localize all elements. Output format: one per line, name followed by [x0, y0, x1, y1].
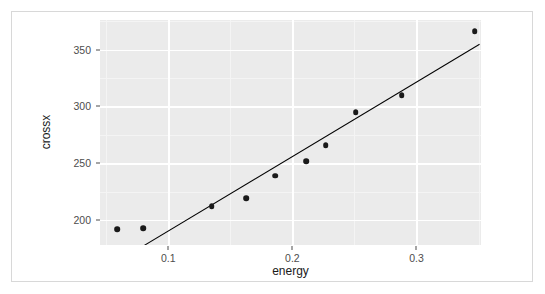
- grid-line-major-vertical: [168, 20, 169, 245]
- grid-line-minor-horizontal: [100, 192, 481, 193]
- grid-line-minor-vertical: [230, 20, 231, 245]
- data-point: [323, 142, 329, 148]
- grid-line-major-horizontal: [100, 220, 481, 221]
- x-axis-tick-mark: [292, 246, 293, 250]
- grid-line-major-horizontal: [100, 50, 481, 51]
- x-axis-tick-mark: [416, 246, 417, 250]
- scatter-plot: 2002503003500.10.20.3 crossx energy: [0, 0, 545, 294]
- y-axis-tick-label: 350: [73, 44, 91, 56]
- data-point: [353, 109, 359, 115]
- x-axis-tick-mark: [168, 246, 169, 250]
- y-axis-tick-label: 300: [73, 100, 91, 112]
- x-axis-tick-label: 0.2: [285, 252, 300, 264]
- grid-line-minor-horizontal: [100, 135, 481, 136]
- y-axis-tick-label: 250: [73, 157, 91, 169]
- y-axis-tick-label: 200: [73, 214, 91, 226]
- x-axis-label: energy: [100, 264, 481, 278]
- data-point: [399, 92, 405, 98]
- plot-panel: [100, 20, 481, 245]
- data-point: [209, 204, 215, 210]
- chart-root: 2002503003500.10.20.3 crossx energy: [0, 0, 545, 294]
- x-axis-tick-label: 0.1: [161, 252, 176, 264]
- y-axis-tick-mark: [96, 220, 100, 221]
- grid-line-minor-vertical: [354, 20, 355, 245]
- data-point: [472, 29, 478, 35]
- grid-line-minor-horizontal: [100, 21, 481, 22]
- grid-line-major-horizontal: [100, 106, 481, 107]
- data-point: [303, 158, 309, 164]
- data-point: [141, 225, 147, 231]
- y-axis-tick-mark: [96, 106, 100, 107]
- data-point: [272, 173, 278, 179]
- y-axis-tick-mark: [96, 49, 100, 50]
- regression-line: [144, 43, 480, 245]
- y-axis-label: crossx: [39, 102, 53, 162]
- grid-line-major-vertical: [416, 20, 417, 245]
- x-axis-tick-label: 0.3: [409, 252, 424, 264]
- grid-line-minor-vertical: [479, 20, 480, 245]
- grid-line-major-vertical: [292, 20, 293, 245]
- y-axis-tick-mark: [96, 163, 100, 164]
- data-point: [244, 196, 250, 202]
- data-point: [115, 226, 121, 232]
- grid-line-minor-vertical: [106, 20, 107, 245]
- grid-line-major-horizontal: [100, 163, 481, 164]
